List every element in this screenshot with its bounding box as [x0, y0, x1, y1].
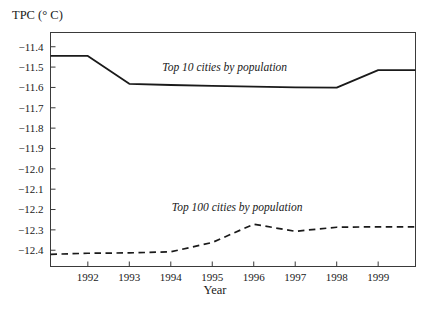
- y-tick-label: −11.4: [18, 41, 44, 53]
- y-tick-label: −11.8: [18, 122, 44, 134]
- data-series-group: [51, 56, 416, 254]
- y-tick-label: −11.5: [18, 61, 44, 73]
- y-tick-label: −12.3: [18, 224, 44, 236]
- x-axis-title: Year: [0, 283, 430, 298]
- y-tick-label: −11.9: [18, 142, 44, 154]
- line-chart-canvas: −11.4−11.5−11.6−11.7−11.8−11.9−12.0−12.1…: [0, 0, 430, 309]
- series-label-2: Top 100 cities by population: [172, 201, 303, 214]
- x-tick-label: 1998: [326, 271, 349, 283]
- x-tick-label: 1995: [201, 271, 224, 283]
- y-axis-ticks: −11.4−11.5−11.6−11.7−11.8−11.9−12.0−12.1…: [18, 41, 55, 256]
- x-tick-label: 1999: [367, 271, 390, 283]
- series-line-2: [51, 224, 416, 254]
- y-tick-label: −12.2: [18, 203, 43, 215]
- y-tick-label: −11.6: [18, 81, 44, 93]
- y-tick-label: −12.4: [18, 244, 44, 256]
- y-tick-label: −12.0: [18, 163, 44, 175]
- y-tick-label: −12.1: [18, 183, 43, 195]
- x-tick-label: 1992: [77, 271, 99, 283]
- x-tick-label: 1996: [243, 271, 266, 283]
- x-axis-ticks: 19921993199419951996199719981999: [77, 262, 390, 283]
- x-tick-label: 1993: [118, 271, 141, 283]
- series-annotations: Top 10 cities by populationTop 100 citie…: [162, 61, 302, 213]
- y-tick-label: −11.7: [18, 102, 44, 114]
- x-tick-label: 1997: [284, 271, 307, 283]
- chart-figure: TPC (° C) −11.4−11.5−11.6−11.7−11.8−11.9…: [0, 0, 430, 309]
- x-tick-label: 1994: [160, 271, 183, 283]
- series-label-1: Top 10 cities by population: [162, 61, 287, 74]
